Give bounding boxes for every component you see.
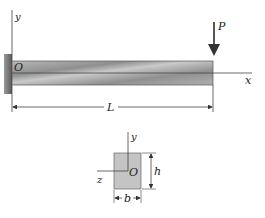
section-origin-label: O [129,166,138,179]
fixed-support-wall [4,54,12,94]
origin-label: O [14,61,23,74]
y-axis-label: y [14,11,21,22]
x-axis-label: x [245,74,252,87]
section-y-axis-label: y [130,131,137,142]
width-label: b [124,192,131,205]
load-label: P [217,20,226,33]
section-z-axis-label: z [96,174,103,185]
height-label: h [154,165,161,178]
cross-section: y z O h b [96,131,161,205]
length-label: L [106,101,114,114]
beam-side-view: y x O P L [4,10,252,114]
cantilever-beam-diagram: y x O P L y z O h b [0,0,265,218]
